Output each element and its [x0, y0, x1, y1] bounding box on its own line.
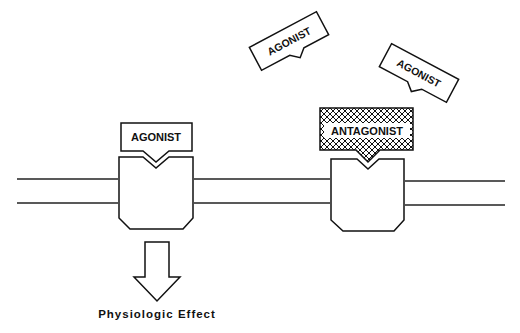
receptor-right — [331, 159, 404, 231]
agonist-bound-ligand: AGONIST — [121, 123, 192, 162]
receptor-left — [119, 157, 193, 229]
receptor-diagram: AGONIST ANTAGONIST AGONIST AGONIST Physi… — [0, 0, 520, 333]
cell-membrane — [17, 179, 505, 205]
agonist-free-ligand-1: AGONIST — [249, 12, 332, 77]
down-arrow-icon — [134, 242, 180, 301]
antagonist-label: ANTAGONIST — [331, 125, 403, 137]
antagonist-ligand: ANTAGONIST — [320, 108, 413, 162]
agonist-free-ligand-2: AGONIST — [376, 44, 459, 109]
physiologic-effect-label: Physiologic Effect — [98, 308, 216, 320]
agonist-bound-label: AGONIST — [131, 131, 181, 143]
